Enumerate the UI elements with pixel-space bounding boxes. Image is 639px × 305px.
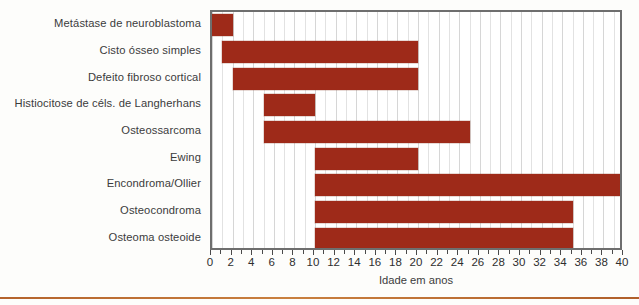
bar: [315, 148, 418, 170]
axis-tick: [354, 250, 355, 255]
axis-tick: [468, 250, 469, 254]
axis-tick: [365, 250, 366, 254]
axis-tick: [571, 250, 572, 254]
category-label: Ewing: [1, 151, 201, 163]
bar: [315, 174, 622, 196]
axis-tick: [601, 250, 602, 255]
axis-tick: [395, 250, 396, 255]
axis-tick: [231, 250, 232, 255]
axis-tick-label: 6: [269, 256, 275, 268]
axis-tick-label: 12: [327, 256, 340, 268]
axis-tick-label: 20: [410, 256, 423, 268]
category-label: Osteocondroma: [1, 204, 201, 216]
axis-tick: [437, 250, 438, 255]
axis-tick: [591, 250, 592, 254]
category-label: Encondroma/Ollier: [1, 177, 201, 189]
axis-tick-label: 2: [227, 256, 233, 268]
axis-tick: [323, 250, 324, 254]
footer-rule: [0, 297, 639, 299]
category-label: Osteossarcoma: [1, 124, 201, 136]
axis-tick: [581, 250, 582, 255]
axis-tick: [385, 250, 386, 254]
axis-tick-label: 26: [471, 256, 484, 268]
axis-tick-label: 4: [248, 256, 254, 268]
bar-series: [212, 12, 620, 248]
axis-tick: [457, 250, 458, 255]
axis-tick: [406, 250, 407, 254]
axis-tick: [292, 250, 293, 255]
bar: [264, 94, 316, 116]
axis-tick-label: 22: [430, 256, 443, 268]
axis-tick: [375, 250, 376, 255]
axis-tick: [416, 250, 417, 255]
axis-tick: [262, 250, 263, 254]
axis-tick-label: 24: [451, 256, 464, 268]
axis-tick-label: 14: [348, 256, 361, 268]
axis-tick: [220, 250, 221, 254]
axis-tick: [313, 250, 314, 255]
bar: [233, 68, 418, 90]
axis-tick: [241, 250, 242, 254]
axis-tick: [251, 250, 252, 255]
axis-tick: [622, 250, 623, 255]
bar: [315, 201, 573, 223]
bar: [222, 41, 418, 63]
axis-tick-label: 16: [368, 256, 381, 268]
axis-tick: [498, 250, 499, 255]
category-label: Histiocitose de céls. de Langherhans: [1, 97, 201, 109]
axis-tick: [334, 250, 335, 255]
axis-tick: [282, 250, 283, 254]
axis-tick-label: 18: [389, 256, 402, 268]
axis-tick-label: 36: [574, 256, 587, 268]
axis-tick-label: 38: [595, 256, 608, 268]
axis-tick: [447, 250, 448, 254]
axis-tick: [344, 250, 345, 254]
axis-tick: [272, 250, 273, 255]
category-label: Defeito fibroso cortical: [1, 71, 201, 83]
axis-tick: [550, 250, 551, 254]
plot-area: [210, 10, 622, 250]
category-label: Osteoma osteoide: [1, 231, 201, 243]
category-label: Metástase de neuroblastoma: [1, 17, 201, 29]
axis-tick-label: 0: [207, 256, 213, 268]
age-distribution-chart-figure: Metástase de neuroblastomaCisto ósseo si…: [0, 0, 639, 305]
category-axis-labels: Metástase de neuroblastomaCisto ósseo si…: [0, 10, 206, 250]
axis-tick-label: 10: [307, 256, 320, 268]
axis-tick-label: 40: [616, 256, 629, 268]
axis-tick-label: 34: [554, 256, 567, 268]
axis-tick-label: 30: [513, 256, 526, 268]
axis-tick: [303, 250, 304, 254]
bar: [315, 228, 573, 250]
axis-tick: [529, 250, 530, 254]
axis-tick-label: 28: [492, 256, 505, 268]
axis-tick-label: 32: [533, 256, 546, 268]
bar: [264, 121, 470, 143]
axis-tick: [560, 250, 561, 255]
axis-tick: [540, 250, 541, 255]
bar: [212, 14, 233, 36]
x-axis-title: Idade em anos: [210, 274, 622, 286]
axis-tick: [210, 250, 211, 255]
axis-tick: [488, 250, 489, 254]
axis-tick-label: 8: [289, 256, 295, 268]
x-axis: 0246810121416182022242628303234363840: [210, 250, 622, 274]
category-label: Cisto ósseo simples: [1, 44, 201, 56]
axis-tick: [426, 250, 427, 254]
axis-tick: [612, 250, 613, 254]
axis-tick: [478, 250, 479, 255]
axis-tick: [509, 250, 510, 254]
axis-tick: [519, 250, 520, 255]
